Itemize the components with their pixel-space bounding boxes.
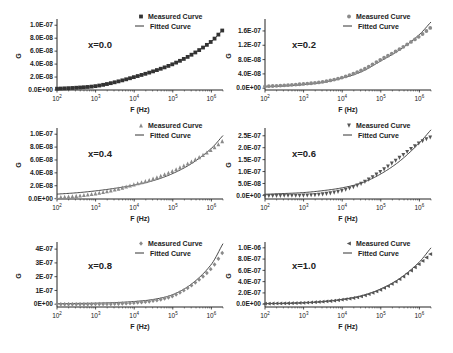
- measured-marker-circle: [355, 70, 359, 74]
- measured-marker-square: [151, 69, 155, 73]
- measured-marker-circle: [413, 38, 417, 42]
- measured-marker-circle: [275, 84, 279, 88]
- measured-marker-triangle-down: [309, 193, 313, 197]
- legend-marker-icon: [139, 15, 143, 19]
- x-axis-label: F (Hz): [130, 323, 149, 331]
- measured-marker-triangle-left: [370, 291, 374, 295]
- measured-marker-circle: [421, 32, 425, 36]
- x-tick-label: 102: [260, 311, 270, 319]
- y-tick-label: 2.5E-07: [238, 132, 261, 139]
- y-tick-label: 4.0E-07: [238, 278, 261, 285]
- measured-marker-diamond: [55, 302, 59, 306]
- measured-marker-square: [186, 55, 190, 59]
- measured-marker-triangle-left: [286, 301, 290, 305]
- measured-marker-triangle-left: [313, 300, 317, 304]
- measured-marker-circle: [424, 29, 428, 33]
- measured-marker-circle: [325, 79, 329, 83]
- measured-marker-circle: [367, 65, 371, 69]
- y-tick-label: 8.0E-08: [30, 34, 53, 41]
- legend-measured-label: Measured Curve: [148, 240, 203, 247]
- y-tick-label: 2.0E-07: [238, 144, 261, 151]
- measured-marker-circle: [359, 69, 363, 73]
- x-tick-label: 102: [260, 94, 270, 102]
- x-tick-label: 103: [299, 311, 309, 319]
- measured-marker-triangle-left: [351, 296, 355, 300]
- measured-marker-square: [67, 86, 71, 90]
- measured-marker-diamond: [97, 302, 101, 306]
- measured-marker-triangle-up: [70, 194, 74, 198]
- legend-marker-icon: [347, 15, 351, 19]
- measured-marker-triangle-left: [363, 293, 367, 297]
- measured-marker-triangle-down: [325, 192, 329, 196]
- measured-marker-triangle-down: [302, 194, 306, 198]
- figure-canvas: 0.0E+002.0E-084.0E-086.0E-088.0E-081.0E-…: [0, 0, 453, 353]
- measured-marker-square: [101, 83, 105, 87]
- chart-panel-x08: 0E+001E-072E-073E-074E-07G10210310410510…: [15, 240, 224, 331]
- measured-marker-triangle-left: [382, 286, 386, 290]
- measured-marker-triangle-down: [355, 184, 359, 188]
- measured-marker-triangle-left: [359, 295, 363, 299]
- measured-marker-triangle-up: [190, 159, 194, 163]
- y-axis-label: G: [225, 273, 232, 279]
- measured-marker-diamond: [74, 302, 78, 306]
- measured-marker-triangle-left: [294, 301, 298, 305]
- y-tick-label: 8.0E-07: [238, 255, 261, 262]
- measured-marker-triangle-down: [398, 156, 402, 160]
- measured-marker-circle: [405, 43, 409, 47]
- measured-marker-circle: [286, 83, 290, 87]
- y-axis-label: G: [15, 162, 22, 168]
- x-tick-label: 106: [415, 94, 425, 102]
- measured-marker-triangle-up: [155, 175, 159, 179]
- y-tick-label: 5.0E-08: [238, 180, 261, 187]
- y-tick-label: 8.0E-08: [238, 56, 261, 63]
- measured-marker-diamond: [220, 251, 224, 255]
- measured-marker-triangle-up: [94, 191, 98, 195]
- x-tick-label: 106: [207, 203, 217, 211]
- y-tick-label: 8.0E-08: [30, 143, 53, 150]
- x-tick-label: 106: [207, 311, 217, 319]
- panel-title: x=0.2: [292, 39, 316, 50]
- x-tick-label: 105: [376, 94, 386, 102]
- measured-marker-triangle-left: [355, 295, 359, 299]
- x-tick-label: 104: [337, 311, 347, 319]
- measured-marker-diamond: [86, 302, 90, 306]
- measured-marker-diamond: [78, 302, 82, 306]
- measured-marker-triangle-down: [344, 188, 348, 192]
- measured-marker-triangle-down: [428, 135, 432, 139]
- measured-marker-triangle-down: [424, 137, 428, 141]
- measured-marker-square: [97, 84, 101, 88]
- panel-title: x=1.0: [292, 260, 316, 271]
- measured-marker-triangle-down: [298, 194, 302, 198]
- measured-marker-triangle-down: [386, 165, 390, 169]
- measured-marker-triangle-up: [170, 169, 174, 173]
- measured-marker-square: [193, 51, 197, 55]
- measured-marker-triangle-left: [328, 299, 332, 303]
- y-tick-label: 1.6E-07: [238, 27, 261, 34]
- measured-marker-square: [105, 82, 109, 86]
- y-tick-label: 1.5E-07: [238, 156, 261, 163]
- measured-marker-circle: [309, 81, 313, 85]
- y-axis-label: G: [15, 53, 22, 59]
- measured-marker-diamond: [190, 283, 194, 287]
- measured-marker-triangle-down: [348, 187, 352, 191]
- panel-title: x=0.6: [292, 148, 316, 159]
- measured-marker-diamond: [193, 280, 197, 284]
- measured-marker-circle: [298, 82, 302, 86]
- measured-marker-square: [63, 86, 67, 90]
- panel-title: x=0.4: [88, 148, 113, 159]
- measured-marker-triangle-down: [263, 194, 267, 198]
- measured-marker-triangle-up: [163, 172, 167, 176]
- measured-marker-triangle-up: [67, 194, 71, 198]
- x-tick-label: 104: [129, 94, 139, 102]
- measured-marker-circle: [332, 78, 336, 82]
- measured-marker-diamond: [70, 302, 74, 306]
- measured-marker-square: [86, 85, 90, 89]
- measured-marker-square: [155, 68, 159, 72]
- measured-marker-triangle-up: [220, 139, 224, 143]
- x-tick-label: 102: [52, 311, 62, 319]
- measured-marker-square: [78, 86, 82, 90]
- measured-marker-triangle-left: [274, 302, 278, 306]
- measured-marker-triangle-down: [286, 194, 290, 198]
- panel-title: x=0.8: [88, 260, 112, 271]
- legend-fitted-label: Fitted Curve: [358, 23, 399, 30]
